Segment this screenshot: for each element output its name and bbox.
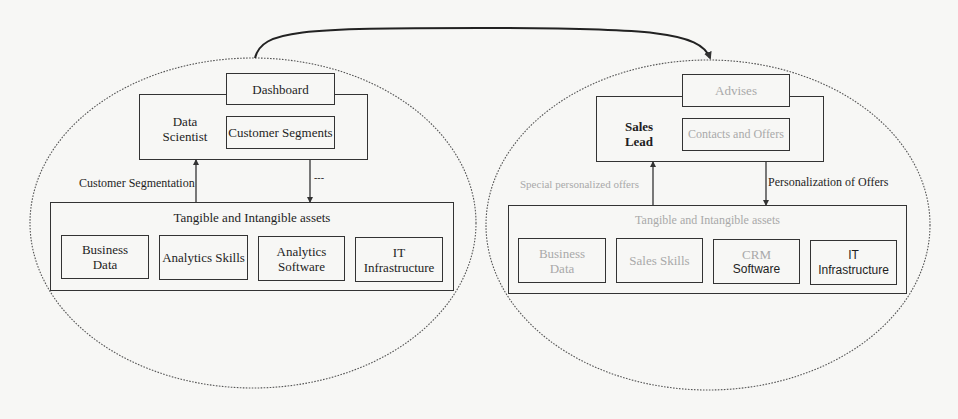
right-actor-line2: Lead	[625, 134, 653, 149]
asset-line1: Business	[82, 242, 128, 257]
right-actor-line1: Sales	[625, 119, 653, 134]
right-assets-title: Tangible and Intangible assets	[508, 211, 907, 229]
left-assets-title: Tangible and Intangible assets	[50, 208, 454, 226]
asset-line2: Software	[278, 259, 325, 274]
right-advises-label: Advises	[715, 83, 757, 98]
asset-line2: Software	[733, 262, 780, 277]
left-segments-box: Customer Segments	[226, 116, 335, 149]
right-contacts-label: Contacts and Offers	[688, 127, 784, 142]
left-down-arrow-label: ---	[314, 171, 324, 185]
right-asset-business-data: Business Data	[518, 238, 606, 283]
asset-line2: Data	[550, 261, 575, 276]
asset-line1: Analytics Skills	[162, 250, 245, 265]
right-down-arrow-label: Personalization of Offers	[768, 175, 888, 189]
left-asset-analytics-skills: Analytics Skills	[159, 235, 248, 280]
left-dashboard-label: Dashboard	[252, 82, 308, 97]
connector-arrow	[255, 28, 710, 58]
left-dashboard-box: Dashboard	[226, 73, 335, 105]
left-actor-line1: Data	[173, 114, 198, 129]
asset-line2: Data	[93, 257, 118, 272]
right-actor-label: Sales Lead	[614, 117, 664, 151]
right-advises-box: Advises	[682, 74, 790, 107]
right-asset-sales-skills: Sales Skills	[616, 238, 703, 283]
asset-line2: Infrastructure	[818, 263, 889, 278]
left-actor-label: Data Scientist	[150, 112, 220, 146]
asset-line1: CRM	[742, 247, 771, 262]
left-asset-it-infrastructure: IT Infrastructure	[355, 237, 443, 282]
asset-line1: Sales Skills	[629, 253, 689, 268]
right-asset-crm-software: CRM Software	[713, 239, 800, 284]
asset-line1: Analytics	[277, 244, 327, 259]
right-up-arrow-label: Special personalized offers	[520, 177, 639, 191]
left-actor-line2: Scientist	[163, 129, 208, 144]
right-asset-it-infrastructure: IT Infrastructure	[810, 240, 897, 285]
left-segments-label: Customer Segments	[228, 125, 332, 140]
asset-line1: IT	[848, 248, 859, 263]
right-contacts-box: Contacts and Offers	[682, 118, 790, 151]
left-up-arrow-label: Customer Segmentation	[79, 176, 195, 190]
asset-line1: Business	[539, 246, 585, 261]
left-asset-business-data: Business Data	[61, 235, 149, 279]
left-asset-analytics-software: Analytics Software	[258, 236, 345, 281]
asset-line1: IT	[393, 245, 405, 260]
asset-line2: Infrastructure	[364, 260, 435, 275]
